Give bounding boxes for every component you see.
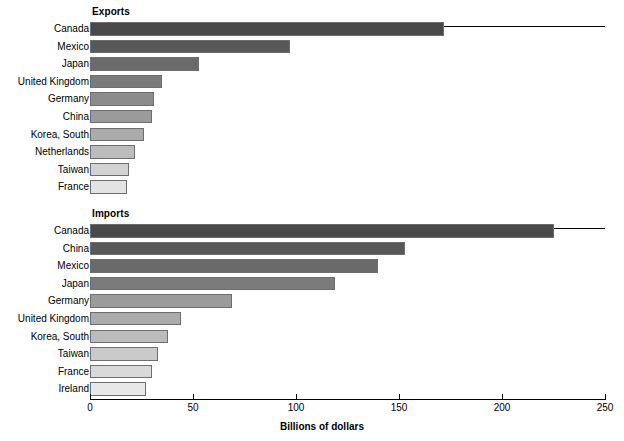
bar xyxy=(90,365,152,379)
bar-row: Netherlands xyxy=(0,143,624,161)
bar-track xyxy=(90,180,605,194)
category-label: China xyxy=(63,240,89,258)
category-label: Mexico xyxy=(57,38,89,56)
imports-bar-rows: CanadaChinaMexicoJapanGermanyUnited King… xyxy=(0,222,624,398)
exports-panel: Exports CanadaMexicoJapanUnited KingdomG… xyxy=(0,6,624,202)
bar-track xyxy=(90,224,605,238)
imports-panel: Imports CanadaChinaMexicoJapanGermanyUni… xyxy=(0,208,624,403)
bar xyxy=(90,40,290,54)
category-label: Taiwan xyxy=(58,345,89,363)
bar-track xyxy=(90,57,605,71)
bar-track xyxy=(90,110,605,124)
bar xyxy=(90,347,158,361)
bar xyxy=(90,110,152,124)
category-label: Korea, South xyxy=(31,126,89,144)
bar xyxy=(90,22,444,36)
bar-track xyxy=(90,92,605,106)
x-axis-tick xyxy=(193,394,194,399)
category-label: United Kingdom xyxy=(18,310,89,328)
bar xyxy=(90,163,129,177)
bar xyxy=(90,259,378,273)
bar-row: Japan xyxy=(0,275,624,293)
bar-row: Mexico xyxy=(0,257,624,275)
category-label: Taiwan xyxy=(58,161,89,179)
category-label: Canada xyxy=(54,20,89,38)
bar-row: United Kingdom xyxy=(0,310,624,328)
bar-track xyxy=(90,347,605,361)
bar xyxy=(90,180,127,194)
x-axis-tick xyxy=(90,394,91,399)
x-axis-line xyxy=(90,399,606,400)
category-label: Netherlands xyxy=(35,143,89,161)
x-axis-tick xyxy=(605,394,606,399)
bar-track xyxy=(90,145,605,159)
bar xyxy=(90,128,144,142)
bar-track xyxy=(90,128,605,142)
x-axis-tick xyxy=(399,394,400,399)
bar xyxy=(90,92,154,106)
exports-panel-title: Exports xyxy=(92,6,130,17)
x-axis-tick-label: 50 xyxy=(187,402,198,413)
bar xyxy=(90,294,232,308)
bar-track xyxy=(90,294,605,308)
bar-row: Taiwan xyxy=(0,345,624,363)
bar xyxy=(90,242,405,256)
bar-row: Germany xyxy=(0,292,624,310)
bar-track xyxy=(90,163,605,177)
x-axis-tick-label: 200 xyxy=(494,402,511,413)
category-label: Germany xyxy=(48,292,89,310)
bar xyxy=(90,277,335,291)
x-axis-title-text: Billions of dollars xyxy=(280,421,364,432)
bar-track xyxy=(90,330,605,344)
category-label: Canada xyxy=(54,222,89,240)
bar-row: United Kingdom xyxy=(0,73,624,91)
bar-track xyxy=(90,40,605,54)
bar xyxy=(90,330,168,344)
bar-row: Mexico xyxy=(0,38,624,56)
x-axis-title: Billions of dollars xyxy=(0,421,624,432)
bar-track xyxy=(90,259,605,273)
x-axis-tick xyxy=(296,394,297,399)
category-label: Germany xyxy=(48,90,89,108)
bar xyxy=(90,145,135,159)
bar xyxy=(90,224,554,238)
bar-row: China xyxy=(0,240,624,258)
x-axis-tick-label: 100 xyxy=(288,402,305,413)
bar xyxy=(90,312,181,326)
category-label: China xyxy=(63,108,89,126)
category-label: France xyxy=(58,363,89,381)
bar-row: France xyxy=(0,178,624,196)
bar-row: Ireland xyxy=(0,380,624,398)
category-label: Korea, South xyxy=(31,328,89,346)
category-label: Mexico xyxy=(57,257,89,275)
category-label: United Kingdom xyxy=(18,73,89,91)
bar-row: France xyxy=(0,363,624,381)
bar-row: Korea, South xyxy=(0,126,624,144)
bar xyxy=(90,382,146,396)
bar-track xyxy=(90,365,605,379)
x-axis-tick xyxy=(502,394,503,399)
bar-track xyxy=(90,312,605,326)
bar-row: Taiwan xyxy=(0,161,624,179)
x-axis: 050100150200250 Billions of dollars xyxy=(0,399,624,441)
exports-bar-rows: CanadaMexicoJapanUnited KingdomGermanyCh… xyxy=(0,20,624,196)
bar-track xyxy=(90,382,605,396)
x-axis-tick-label: 150 xyxy=(391,402,408,413)
bar-row: Japan xyxy=(0,55,624,73)
category-label: Ireland xyxy=(58,380,89,398)
imports-panel-title: Imports xyxy=(92,208,129,219)
bar-row: China xyxy=(0,108,624,126)
bar-track xyxy=(90,75,605,89)
trade-bar-chart: Exports CanadaMexicoJapanUnited KingdomG… xyxy=(0,0,624,441)
bar-row: Canada xyxy=(0,222,624,240)
bar-row: Korea, South xyxy=(0,328,624,346)
bar-track xyxy=(90,22,605,36)
bar-row: Germany xyxy=(0,90,624,108)
x-axis-tick-label: 0 xyxy=(87,402,93,413)
x-axis-tick-label: 250 xyxy=(597,402,614,413)
bar-track xyxy=(90,242,605,256)
category-label: Japan xyxy=(62,55,89,73)
bar-track xyxy=(90,277,605,291)
bar xyxy=(90,75,162,89)
bar xyxy=(90,57,199,71)
